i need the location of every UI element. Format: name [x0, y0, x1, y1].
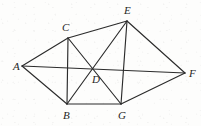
edge-c-g: [68, 38, 121, 104]
edge-c-b: [67, 38, 68, 104]
edges-group: [22, 21, 185, 104]
edge-c-e: [68, 21, 127, 38]
figure-canvas: ABCDEFG: [0, 0, 201, 126]
edge-e-f: [127, 21, 185, 73]
vertex-label-e: E: [123, 4, 131, 16]
edge-g-f: [121, 73, 185, 104]
vertex-label-c: C: [62, 21, 70, 33]
vertex-label-d: D: [91, 73, 100, 85]
vertex-label-f: F: [188, 67, 196, 79]
vertex-label-g: G: [118, 109, 126, 121]
edge-e-b: [67, 21, 127, 104]
edge-a-c: [22, 38, 68, 66]
edge-e-g: [121, 21, 127, 104]
edge-a-b: [22, 66, 67, 104]
vertex-label-b: B: [63, 109, 70, 121]
vertex-label-a: A: [12, 60, 20, 72]
edge-a-f: [22, 66, 185, 73]
geometry-figure: ABCDEFG: [0, 0, 201, 126]
